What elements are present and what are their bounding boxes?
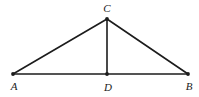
vertex-label-d: D — [103, 81, 112, 93]
segment-AC — [13, 19, 107, 74]
geometry-figure: A B C D — [0, 0, 199, 97]
geometry-canvas: A B C D — [0, 0, 199, 97]
vertex-dot-b — [186, 72, 190, 76]
vertex-dot-a — [11, 72, 15, 76]
vertex-label-c: C — [103, 2, 111, 14]
vertex-dot-d — [105, 72, 109, 76]
vertex-dot-c — [105, 17, 109, 21]
vertex-label-b: B — [186, 80, 193, 92]
vertex-label-a: A — [10, 80, 18, 92]
segment-CB — [107, 19, 188, 74]
